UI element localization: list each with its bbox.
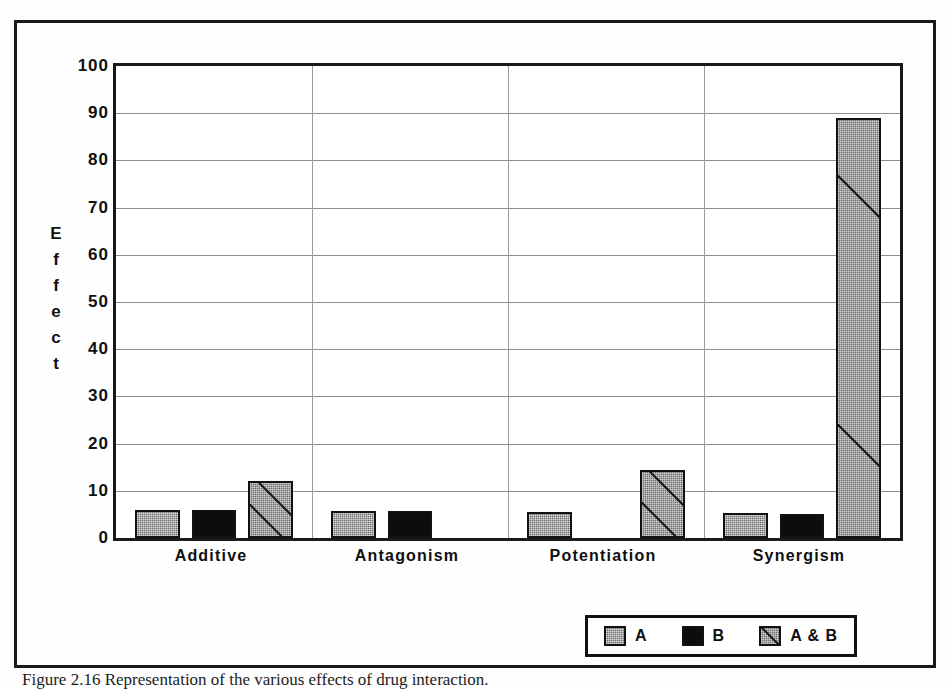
bar-series-ab-potentiation (640, 470, 685, 538)
legend-swatch-icon (759, 626, 781, 646)
category-separator-gridline (508, 66, 509, 538)
legend-item-series-a[interactable]: A (604, 626, 648, 646)
y-axis-tick-label: 80 (57, 150, 109, 170)
bar-series-ab-additive (248, 481, 293, 538)
bar-series-a-additive (135, 510, 180, 538)
y-axis-tick-label: 90 (57, 103, 109, 123)
y-axis-tick-label: 10 (57, 481, 109, 501)
bar-chart: Effect 1009080706050403020100 AdditiveAn… (17, 23, 939, 671)
bar-series-b-antagonism (388, 511, 433, 538)
x-axis-category-labels: AdditiveAntagonismPotentiationSynergism (113, 547, 903, 577)
legend-swatch-icon (682, 626, 704, 646)
y-axis-tick-label: 100 (57, 56, 109, 76)
bar-series-b-synergism (780, 514, 825, 538)
legend-item-series-ab[interactable]: A & B (759, 626, 838, 646)
x-axis-label-antagonism: Antagonism (355, 547, 459, 565)
bar-series-a-potentiation (527, 512, 572, 538)
legend-item-series-b[interactable]: B (682, 626, 726, 646)
y-axis-tick-labels: 1009080706050403020100 (57, 63, 109, 541)
bar-series-a-antagonism (331, 511, 376, 538)
bar-series-ab-synergism (836, 118, 881, 538)
bar-series-b-additive (192, 510, 237, 538)
chart-legend: ABA & B (585, 615, 857, 657)
x-axis-label-potentiation: Potentiation (550, 547, 657, 565)
y-axis-tick-label: 30 (57, 386, 109, 406)
bar-series-a-synergism (723, 513, 768, 538)
x-axis-label-synergism: Synergism (753, 547, 846, 565)
legend-label: B (713, 627, 726, 645)
legend-label: A (635, 627, 648, 645)
plot-inner (116, 66, 900, 538)
figure-caption: Figure 2.16 Representation of the variou… (22, 670, 942, 690)
plot-area (113, 63, 903, 541)
y-axis-tick-label: 60 (57, 245, 109, 265)
figure-frame: Effect 1009080706050403020100 AdditiveAn… (14, 20, 936, 668)
category-separator-gridline (704, 66, 705, 538)
y-axis-tick-label: 20 (57, 434, 109, 454)
y-axis-tick-label: 50 (57, 292, 109, 312)
y-axis-tick-label: 0 (57, 528, 109, 548)
legend-swatch-icon (604, 626, 626, 646)
y-axis-tick-label: 40 (57, 339, 109, 359)
category-separator-gridline (312, 66, 313, 538)
legend-label: A & B (790, 627, 838, 645)
x-axis-label-additive: Additive (175, 547, 248, 565)
y-axis-tick-label: 70 (57, 198, 109, 218)
